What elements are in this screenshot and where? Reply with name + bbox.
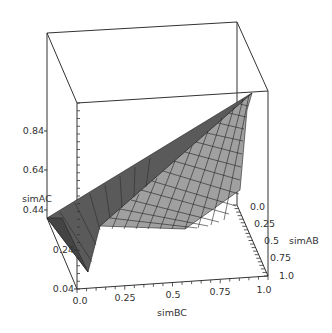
z-tick-label: 0.04 [53, 283, 74, 294]
z-tick-label: 0.44 [23, 204, 44, 215]
z-tick-label: 0.24 [53, 244, 74, 255]
y-tick-label: 0.25 [254, 218, 275, 229]
x-tick-label: 0.25 [114, 292, 135, 303]
x-tick-label: 1.0 [256, 284, 271, 295]
z-tick-label: 0.84 [23, 125, 44, 136]
y-axis-label: simAB [289, 235, 319, 246]
x-tick-label: 0.75 [209, 286, 230, 297]
y-tick-label: 1.0 [279, 270, 294, 281]
x-tick-label: 0.5 [165, 289, 180, 300]
x-axis-label: simBC [157, 307, 187, 318]
z-tick-label: 0.64 [23, 164, 44, 175]
z-axis-label: simAC [22, 193, 52, 204]
y-tick-label: 0.75 [270, 252, 291, 263]
surface-plot: 0.84 0.64 0.44 0.24 0.04 simAC 0.0 0.25 … [0, 0, 332, 333]
y-tick-label: 0.5 [264, 235, 279, 246]
x-tick-label: 0.0 [72, 295, 87, 306]
y-tick-label: 0.0 [250, 201, 265, 212]
surface-mesh [47, 93, 252, 272]
